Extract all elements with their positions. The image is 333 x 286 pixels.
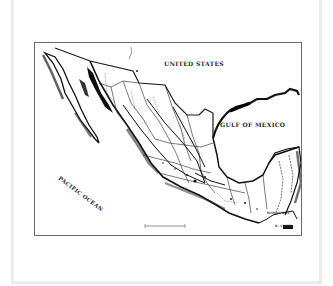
- label-gulf-of-mexico: GULF OF MEXICO: [220, 121, 285, 128]
- mexico-map-illustration: [35, 43, 302, 236]
- map-panel: UNITED STATES GULF OF MEXICO PACIFIC OCE…: [34, 42, 302, 236]
- scale-bar: [145, 224, 185, 228]
- label-costa: B. COSTA: [275, 224, 294, 228]
- label-united-states: UNITED STATES: [164, 60, 224, 67]
- label-honduras: HONDURAS: [267, 211, 290, 215]
